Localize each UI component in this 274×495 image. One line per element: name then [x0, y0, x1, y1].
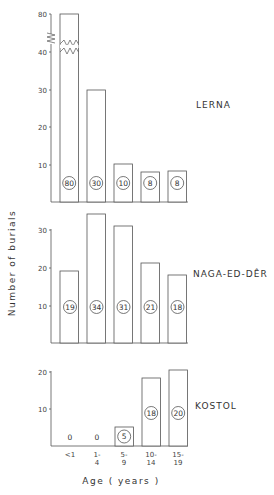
kostol-tick-10: 10 — [38, 406, 47, 414]
svg-text:8: 8 — [175, 179, 180, 188]
naga-tick-10: 10 — [38, 303, 47, 311]
naga-label: NAGA-ED-DÊR — [193, 268, 268, 279]
svg-text:18: 18 — [173, 303, 183, 312]
lerna-tick-80: 80 — [38, 11, 47, 19]
svg-text:15-: 15- — [172, 451, 184, 459]
svg-text:<1: <1 — [65, 451, 75, 459]
svg-text:18: 18 — [146, 409, 156, 418]
chart-figure: 80 40 30 20 10 80 30 10 8 8 LERNA — [0, 0, 274, 495]
lerna-tick-40: 40 — [38, 49, 47, 57]
naga-panel: 30 20 10 19 34 31 21 18 NAGA-ED-DÊR — [38, 214, 268, 343]
svg-text:10-: 10- — [145, 451, 157, 459]
svg-text:14: 14 — [147, 459, 156, 467]
svg-text:1-: 1- — [94, 451, 101, 459]
naga-bar-5-9 — [114, 226, 133, 343]
svg-text:10: 10 — [118, 179, 128, 188]
lerna-label: LERNA — [196, 100, 231, 110]
lerna-value-circles: 80 30 10 8 8 — [63, 177, 184, 190]
kostol-value-1-4: 0 — [95, 433, 100, 442]
svg-text:19: 19 — [174, 459, 183, 467]
naga-tick-20: 20 — [38, 265, 47, 273]
svg-text:31: 31 — [119, 303, 129, 312]
svg-text:30: 30 — [91, 179, 101, 188]
svg-text:20: 20 — [173, 409, 183, 418]
x-axis-title: Age ( years ) — [82, 476, 159, 486]
naga-bar-1-4 — [87, 214, 106, 343]
lerna-tick-10: 10 — [38, 162, 47, 170]
lerna-tick-20: 20 — [38, 124, 47, 132]
lerna-tick-30: 30 — [38, 87, 47, 95]
svg-text:8: 8 — [148, 179, 153, 188]
svg-text:9: 9 — [122, 459, 126, 467]
svg-text:5: 5 — [122, 432, 127, 441]
y-axis-title: Number of burials — [7, 210, 17, 316]
svg-text:19: 19 — [65, 303, 75, 312]
kostol-value-lt1: 0 — [68, 433, 73, 442]
kostol-panel: 20 10 0 0 5 18 20 KOSTOL — [38, 369, 237, 447]
svg-text:34: 34 — [92, 303, 102, 312]
x-axis-labels: <1 1- 4 5- 9 10- 14 15- 19 — [65, 451, 184, 467]
kostol-tick-20: 20 — [38, 369, 47, 377]
svg-text:80: 80 — [64, 179, 74, 188]
lerna-panel: 80 40 30 20 10 80 30 10 8 8 LERNA — [38, 11, 231, 203]
naga-tick-30: 30 — [38, 227, 47, 235]
svg-text:21: 21 — [146, 303, 156, 312]
naga-value-circles: 19 34 31 21 18 — [64, 301, 185, 314]
svg-text:5-: 5- — [121, 451, 128, 459]
svg-text:4: 4 — [95, 459, 100, 467]
kostol-label: KOSTOL — [195, 401, 237, 411]
